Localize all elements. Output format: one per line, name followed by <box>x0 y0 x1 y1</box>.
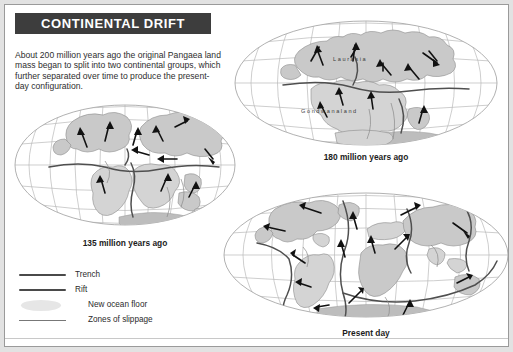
legend-label-trench: Trench <box>75 270 100 279</box>
label-laurasia: Laurasia <box>333 56 367 62</box>
page-root: CONTINENTAL DRIFT About 200 million year… <box>0 0 513 352</box>
map-180-caption: 180 million years ago <box>223 152 509 162</box>
label-gondwanaland: Gondwanaland <box>301 108 358 114</box>
content-panel: CONTINENTAL DRIFT About 200 million year… <box>4 4 509 347</box>
map-present-day: Present day <box>217 187 509 338</box>
legend-label-rift: Rift <box>75 285 87 294</box>
rift-line-swatch <box>19 284 66 296</box>
legend-label-new-ocean-floor: New ocean floor <box>88 300 147 309</box>
map-135-caption: 135 million years ago <box>9 238 241 248</box>
legend-item-zones-of-slippage: Zones of slippage <box>19 312 153 327</box>
map-135-graphic <box>9 97 241 239</box>
zones-of-slippage-swatch <box>19 314 66 326</box>
map-present-caption: Present day <box>217 328 509 338</box>
new-ocean-floor-swatch <box>19 299 66 311</box>
map-135-mya: 135 million years ago <box>9 97 241 248</box>
title-banner: CONTINENTAL DRIFT <box>15 13 211 34</box>
map-180-mya: Laurasia Gondwanaland 180 million years … <box>223 13 509 162</box>
footer-divider <box>5 338 508 339</box>
page-title: CONTINENTAL DRIFT <box>41 16 185 31</box>
legend-item-trench: Trench <box>19 267 153 282</box>
trench-line-swatch <box>19 269 66 281</box>
intro-paragraph: About 200 million years ago the original… <box>15 50 221 92</box>
map-180-graphic: Laurasia Gondwanaland <box>223 13 509 153</box>
legend: Trench Rift New ocean floor Zones of sli… <box>19 267 153 327</box>
legend-item-new-ocean-floor: New ocean floor <box>19 297 153 312</box>
legend-item-rift: Rift <box>19 282 153 297</box>
legend-label-zones-of-slippage: Zones of slippage <box>88 315 153 324</box>
map-present-graphic <box>217 187 509 329</box>
